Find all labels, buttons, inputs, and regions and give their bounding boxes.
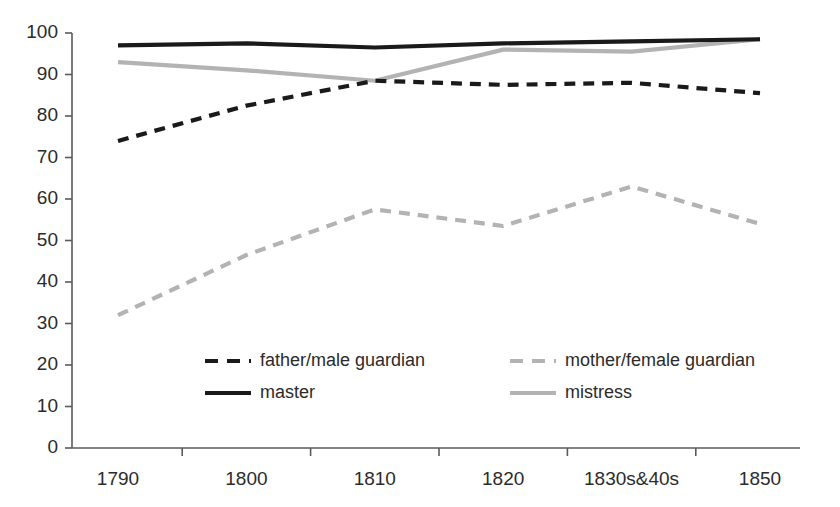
y-axis-tick-label: 90 [12,63,58,85]
y-axis-tick-label: 100 [12,21,58,43]
y-axis-tick-label: 80 [12,104,58,126]
legend-label: father/male guardian [260,350,425,371]
y-axis-tick-label: 40 [12,270,58,292]
series-line [118,39,760,47]
y-axis-tick-label: 0 [12,436,58,458]
legend-label: mistress [565,382,632,403]
legend-label: master [260,382,315,403]
chart-series-lines [118,39,760,315]
series-line [118,187,760,316]
series-line [118,81,760,141]
y-axis-tick-label: 20 [12,353,58,375]
line-chart: 0102030405060708090100 17901800181018201… [0,0,840,507]
y-axis-tick-label: 70 [12,146,58,168]
x-axis-tick-label: 1850 [680,468,840,490]
chart-axes [65,33,800,456]
chart-plot-area [0,0,840,507]
y-axis-tick-label: 10 [12,395,58,417]
legend-label: mother/female guardian [565,350,755,371]
y-axis-tick-label: 50 [12,229,58,251]
y-axis-tick-label: 30 [12,312,58,334]
y-axis-tick-label: 60 [12,187,58,209]
